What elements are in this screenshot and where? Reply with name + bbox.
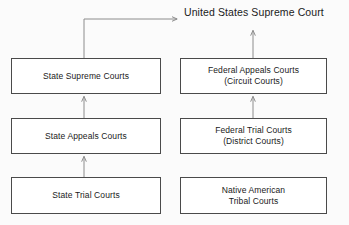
node-state-appeals-courts: State Appeals Courts bbox=[11, 118, 161, 154]
node-label-line1: State Appeals Courts bbox=[45, 131, 127, 142]
node-label-line1: Federal Trial Courts bbox=[215, 125, 292, 136]
court-system-diagram: United States Supreme Court State Suprem… bbox=[0, 0, 349, 225]
node-label-line1: Federal Appeals Courts bbox=[208, 65, 299, 76]
node-label-line1: State Supreme Courts bbox=[43, 71, 129, 82]
apex-node-us-supreme-court: United States Supreme Court bbox=[184, 6, 324, 19]
node-state-supreme-courts: State Supreme Courts bbox=[11, 58, 161, 94]
node-label-line2: (District Courts) bbox=[223, 136, 284, 147]
node-federal-appeals-courts: Federal Appeals Courts (Circuit Courts) bbox=[180, 58, 327, 94]
node-label-line1: State Trial Courts bbox=[52, 190, 119, 201]
node-state-trial-courts: State Trial Courts bbox=[11, 177, 161, 214]
node-label-line2: (Circuit Courts) bbox=[224, 76, 283, 87]
node-federal-trial-courts: Federal Trial Courts (District Courts) bbox=[180, 118, 327, 154]
edge-state-supreme-to-us-supreme bbox=[84, 19, 177, 58]
node-native-american-tribal-courts: Native American Tribal Courts bbox=[180, 177, 327, 214]
node-label-line1: Native American bbox=[222, 185, 285, 196]
node-label-line2: Tribal Courts bbox=[229, 196, 279, 207]
